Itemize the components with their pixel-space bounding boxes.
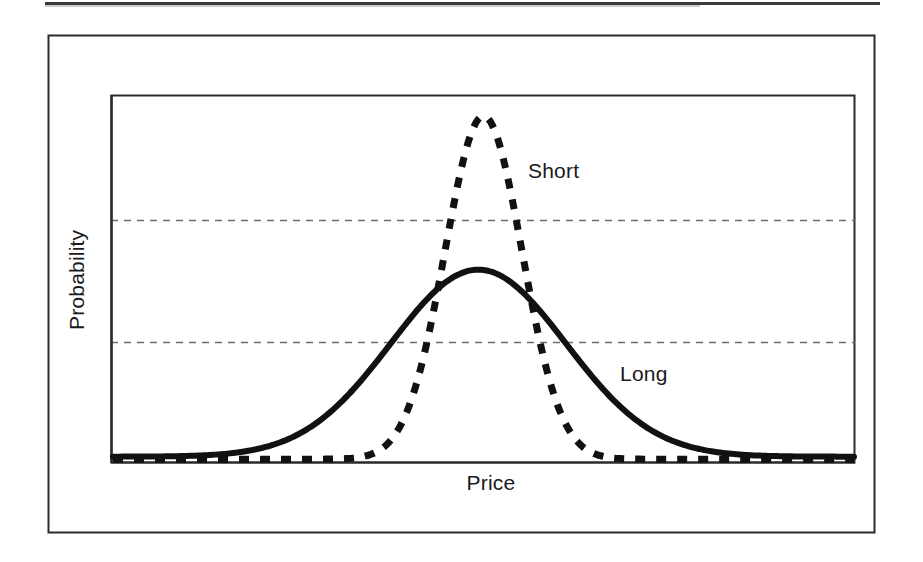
chart-canvas: Probability Price Short Long — [0, 0, 923, 562]
plot-area-frame — [112, 96, 855, 463]
x-axis-title: Price — [467, 471, 516, 494]
y-axis-title: Probability — [65, 229, 88, 330]
series-label-short: Short — [528, 159, 579, 182]
figure-container: Probability Price Short Long — [0, 0, 923, 562]
series-label-long: Long — [620, 362, 668, 385]
